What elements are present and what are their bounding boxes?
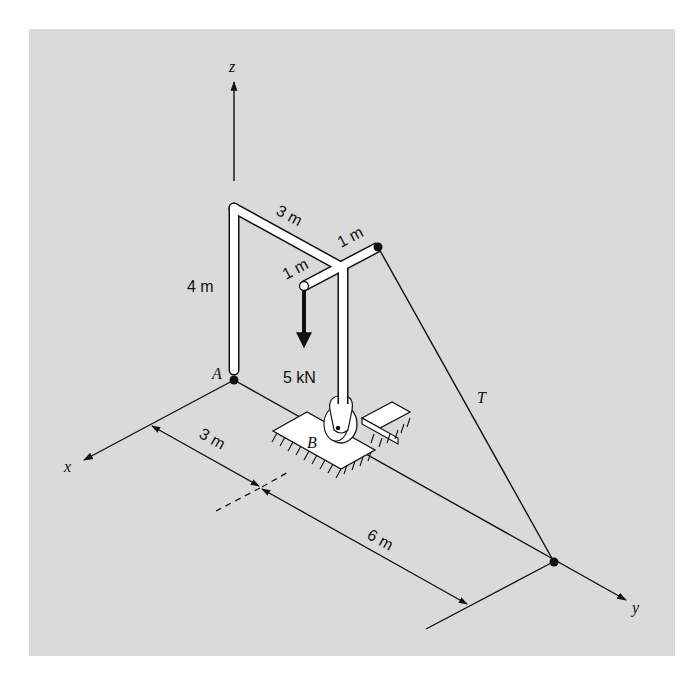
dimension-label-4m: 4 m: [187, 278, 214, 295]
z-axis-label: z: [228, 58, 236, 75]
arm-right-end: [374, 243, 383, 252]
x-axis-label: x: [63, 458, 71, 475]
point-label-A: A: [211, 365, 222, 382]
statics-diagram: z x y 3 m 6 m T: [0, 0, 685, 685]
diagram-background: [29, 29, 675, 656]
load-label: 5 kN: [283, 369, 316, 386]
y-axis-label: y: [630, 599, 640, 617]
arm-left-end: [300, 282, 309, 291]
cable-anchor-point: [550, 558, 559, 567]
cable-label: T: [477, 389, 487, 406]
point-label-B: B: [307, 434, 317, 451]
point-A: [230, 376, 239, 385]
